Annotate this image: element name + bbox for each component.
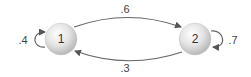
edge-2-to-1 <box>75 51 182 61</box>
node-1: 1 <box>45 23 77 55</box>
markov-diagram: .6 .3 .4 .7 1 2 <box>0 0 251 77</box>
edge-label-1-to-2: .6 <box>120 3 129 15</box>
edge-label-2-to-1: .3 <box>120 62 129 74</box>
node-2-label: 2 <box>192 32 199 46</box>
self-loop-1 <box>35 32 45 47</box>
self-loop-label-1: .4 <box>18 34 27 46</box>
self-loop-label-2: .7 <box>228 34 237 46</box>
edge-1-to-2 <box>74 18 181 28</box>
node-1-label: 1 <box>58 32 65 46</box>
node-2: 2 <box>179 23 211 55</box>
self-loop-2 <box>211 31 223 47</box>
